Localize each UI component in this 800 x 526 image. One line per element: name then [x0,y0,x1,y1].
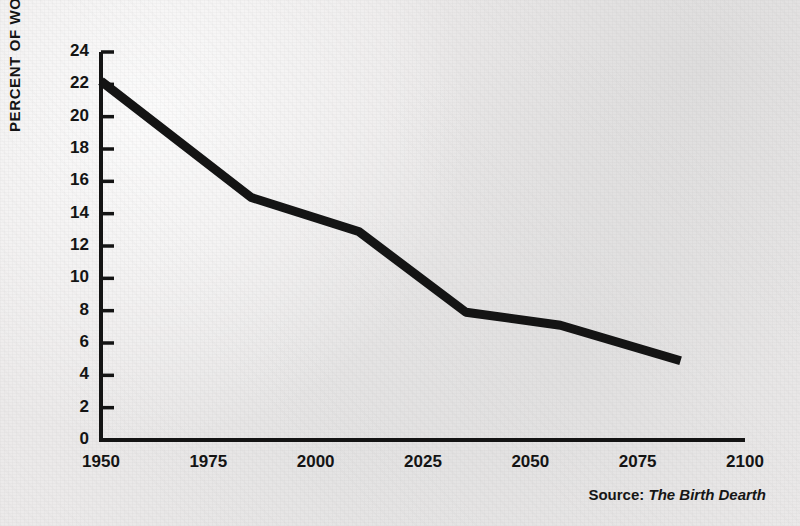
chart-page: PERCENT OF WORLD POPULATION 024681012141… [0,0,800,526]
source-attribution: Source: The Birth Dearth [588,486,766,503]
x-axis-tick-label: 2000 [281,452,351,472]
line-chart-plot [0,0,800,526]
x-axis-tick-label: 2050 [495,452,565,472]
y-axis-tick-label: 4 [45,364,89,384]
y-axis-tick-label: 6 [45,332,89,352]
y-axis-title: PERCENT OF WORLD POPULATION [6,0,23,132]
source-title-label: The Birth Dearth [648,486,766,503]
data-series-group [101,81,681,361]
x-axis-tick-label: 2025 [388,452,458,472]
y-axis-tick-label: 10 [45,267,89,287]
axis-frame [101,52,745,440]
x-axis-tick-label: 1950 [66,452,136,472]
y-axis-tick-label: 12 [45,235,89,255]
population-trend-line [101,81,681,361]
axis-lines [101,52,745,440]
source-prefix-label: Source: [588,486,644,503]
y-axis-tick-label: 20 [45,106,89,126]
y-axis-tick-label: 24 [45,41,89,61]
y-axis-tick-label: 2 [45,397,89,417]
y-axis-tick-label: 16 [45,170,89,190]
x-axis-tick-label: 2100 [710,452,780,472]
y-axis-tick-label: 18 [45,138,89,158]
y-axis-tick-label: 14 [45,203,89,223]
x-axis-tick-label: 2075 [603,452,673,472]
y-axis-tick-label: 0 [45,429,89,449]
x-axis-tick-label: 1975 [173,452,243,472]
y-axis-tick-label: 22 [45,73,89,93]
y-axis-tick-label: 8 [45,300,89,320]
